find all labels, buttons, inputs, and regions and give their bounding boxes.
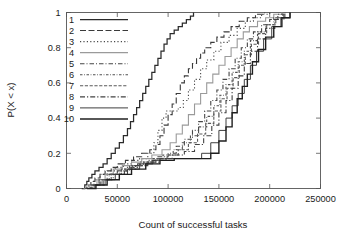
legend-label-7: 7 — [69, 81, 74, 91]
y-tick-label: 1 — [55, 8, 60, 18]
legend-label-3: 3 — [69, 37, 74, 47]
x-tick-label: 50000 — [105, 194, 131, 204]
x-tick-label: 250000 — [305, 194, 336, 204]
legend-label-6: 6 — [69, 70, 74, 80]
y-tick-label: 0.8 — [48, 43, 61, 53]
legend-label-1: 1 — [69, 15, 74, 25]
y-tick-label: 0 — [55, 184, 60, 194]
x-tick-label: 0 — [64, 194, 69, 204]
x-tick-label: 200000 — [254, 194, 285, 204]
cdf-chart: 050000100000150000200000250000 00.20.40.… — [0, 0, 351, 237]
chart-figure: 050000100000150000200000250000 00.20.40.… — [0, 0, 351, 237]
y-tick-label: 0.2 — [48, 149, 61, 159]
legend-label-5: 5 — [69, 59, 74, 69]
x-tick-label: 150000 — [204, 194, 235, 204]
legend-label-9: 9 — [69, 103, 74, 113]
y-tick-label: 0.4 — [48, 113, 61, 123]
x-axis-title: Count of successful tasks — [139, 219, 248, 230]
legend-label-8: 8 — [69, 92, 74, 102]
legend-label-4: 4 — [69, 48, 74, 58]
legend-label-2: 2 — [69, 26, 74, 36]
legend-label-10: 10 — [64, 114, 74, 124]
y-axis-title: P(X < x) — [5, 83, 16, 118]
y-tick-label: 0.6 — [48, 78, 61, 88]
x-tick-label: 100000 — [153, 194, 184, 204]
